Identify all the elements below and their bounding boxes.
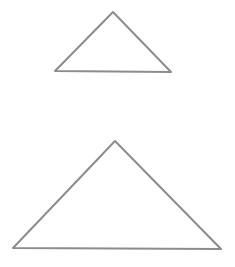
large-triangle — [13, 141, 221, 249]
drawing-canvas — [0, 0, 235, 267]
small-triangle — [55, 12, 171, 72]
